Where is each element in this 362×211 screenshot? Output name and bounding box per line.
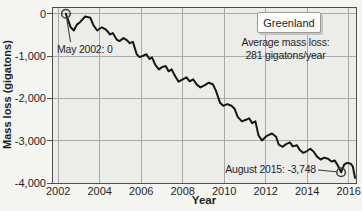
x-tick-label: 2010 (206, 185, 242, 197)
average-mass-loss-note: Average mass loss: 281 gigatons/year (213, 36, 358, 61)
x-tick-label: 2012 (248, 185, 284, 197)
y-tick-label: -4,000 (0, 177, 46, 189)
y-tick-label: -2,000 (0, 92, 46, 104)
x-tick-label: 2006 (123, 185, 159, 197)
average-mass-loss-line1: Average mass loss: (213, 36, 358, 49)
x-tick-label: 2014 (289, 185, 325, 197)
x-tick-label: 2016 (331, 185, 362, 197)
legend-label: Greenland (263, 17, 314, 29)
annotation-august-2015: August 2015: -3,748 (225, 163, 316, 175)
x-tick-label: 2004 (82, 185, 118, 197)
annotation-may-2002: May 2002: 0 (57, 43, 113, 55)
average-mass-loss-line2: 281 gigatons/year (213, 49, 358, 62)
legend-box: Greenland (257, 12, 321, 33)
plot-background (52, 7, 356, 183)
x-tick-label: 2008 (165, 185, 201, 197)
y-tick-label: 0 (0, 8, 46, 20)
greenland-mass-loss-chart: Mass loss (gigatons) Year Greenland Aver… (0, 0, 362, 211)
y-tick-label: -3,000 (0, 135, 46, 147)
y-tick-label: -1,000 (0, 50, 46, 62)
